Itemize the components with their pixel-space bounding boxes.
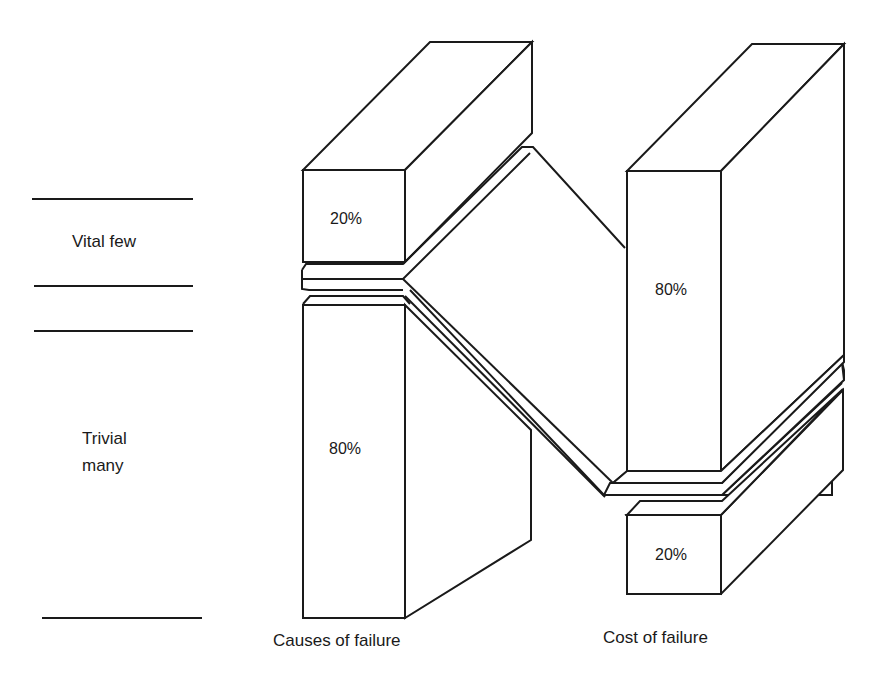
cost-vital-few-value: 80% — [655, 281, 687, 299]
column-label-cost: Cost of failure — [603, 627, 708, 648]
column-label-causes: Causes of failure — [273, 630, 401, 651]
label-trivial-many-line1: Trivial — [82, 428, 127, 449]
pareto-diagram-drawing — [0, 0, 879, 673]
label-vital-few: Vital few — [72, 231, 136, 252]
causes-trivial-many-value: 80% — [329, 440, 361, 458]
cost-trivial-many-value: 20% — [655, 546, 687, 564]
causes-vital-few-value: 20% — [330, 210, 362, 228]
causes-vital-few-box — [303, 42, 532, 262]
label-trivial-many-line2: many — [82, 455, 124, 476]
causes-trivial-many-box — [303, 305, 531, 618]
